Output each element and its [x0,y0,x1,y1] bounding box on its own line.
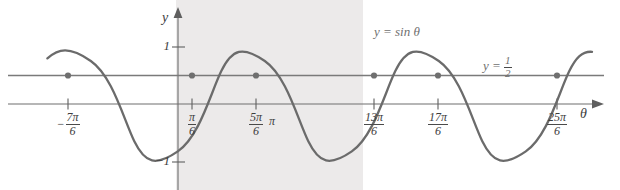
half-numerator: 1 [504,55,512,68]
y-axis-label: y [162,11,168,25]
tick-numerator: 25π [547,111,567,125]
tick-numerator: 7π [66,111,80,125]
sine-curve-annotation: y = sin θ [374,25,420,38]
tick-fraction: π6 [188,111,196,137]
plot-canvas [0,0,620,190]
tick-denominator: 6 [547,125,567,138]
tick-denominator: 6 [364,125,384,138]
half-line-prefix: y = [483,58,501,73]
y-tick-label-1: 1 [156,39,170,52]
tick-numerator: 13π [364,111,384,125]
tick-denominator: 6 [428,125,448,138]
tick-value: π [269,114,275,128]
tick-fraction: 7π6 [66,111,80,137]
half-fraction: 1 2 [504,55,512,79]
tick-denominator: 6 [66,125,80,138]
y-tick-label-minus-1: −1 [148,154,170,167]
x-tick-label-neg-7pi-6: −7π6 [42,111,94,137]
x-tick-label-17pi-6: 17π6 [412,111,464,137]
negative-sign: − [56,118,65,130]
sine-graph-figure: y θ 1 −1 y = sin θ y = 1 2 −7π6π65π6π13π… [0,0,620,190]
x-tick-label-25pi-6: 25π6 [531,111,583,137]
shaded-period-region [176,0,363,190]
x-tick-label-pi-6: π6 [166,111,218,137]
tick-denominator: 6 [188,125,196,138]
tick-numerator: π [188,111,196,125]
tick-fraction: 25π6 [547,111,567,137]
half-denominator: 2 [504,68,512,80]
tick-fraction: 17π6 [428,111,448,137]
x-tick-label-pi: π [246,115,298,127]
tick-fraction: 13π6 [364,111,384,137]
x-tick-label-13pi-6: 13π6 [348,111,400,137]
half-line-annotation: y = 1 2 [483,55,512,79]
tick-numerator: 17π [428,111,448,125]
